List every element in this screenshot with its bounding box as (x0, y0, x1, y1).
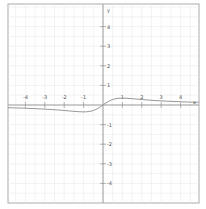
x-tick-label: -4 (23, 94, 28, 100)
x-tick-label: 1 (121, 94, 124, 100)
x-tick-label: 3 (160, 94, 163, 100)
y-tick-label: -4 (107, 180, 112, 186)
y-tick-label: -1 (107, 122, 112, 128)
x-tick-label: -3 (42, 94, 47, 100)
y-axis-label: y (107, 7, 110, 14)
x-axis-label: x (193, 99, 196, 105)
y-tick-label: -2 (107, 141, 112, 147)
y-tick-label: 4 (107, 24, 110, 30)
y-tick-label: 2 (107, 63, 110, 69)
y-tick-label: 1 (107, 82, 110, 88)
function-plot: -4-3-2-112344321-1-2-3-4 x y (0, 0, 206, 209)
x-tick-label: 4 (179, 94, 182, 100)
y-tick-label: 3 (107, 43, 110, 49)
y-tick-label: -3 (107, 161, 112, 167)
x-tick-label: -2 (62, 94, 67, 100)
plot-frame (8, 4, 199, 203)
x-tick-label: -1 (81, 94, 86, 100)
